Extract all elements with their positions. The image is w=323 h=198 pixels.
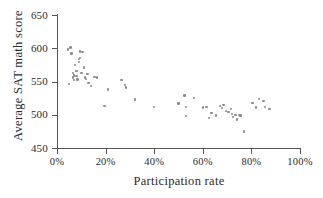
data-point [258,98,260,100]
data-point [75,70,77,72]
x-tick-label: 20% [84,156,128,167]
data-point [107,88,109,90]
data-point [205,106,207,108]
data-point [236,118,238,120]
data-point [262,100,264,102]
data-point [268,108,270,110]
data-point [103,105,105,107]
data-point [69,46,71,48]
x-tick-mark [251,149,252,154]
data-point [210,112,212,114]
x-tick-mark [300,149,301,154]
data-point [230,108,232,110]
x-tick-label: 0% [35,156,79,167]
data-point [96,76,98,78]
data-point [202,106,204,108]
data-point [87,82,89,84]
plot-area [57,15,300,148]
y-axis-title: Average SAT math score [11,6,26,146]
data-point [80,72,82,74]
data-point [222,104,224,106]
x-tick-mark [106,149,107,154]
data-point [227,111,229,113]
scatter-plot-figure: 450500550600650 0%20%40%60%80%100% Parti… [0,0,323,198]
x-tick-mark [154,149,155,154]
data-point [243,130,245,132]
data-point [185,106,187,108]
data-point [264,106,266,108]
x-tick-label: 80% [229,156,273,167]
data-point [251,102,253,104]
x-tick-mark [203,149,204,154]
data-point [76,78,78,80]
x-tick-label: 40% [132,156,176,167]
data-point [234,114,236,116]
data-point [70,52,72,54]
data-point [239,114,241,116]
x-tick-mark [57,149,58,154]
x-axis-line [57,148,301,149]
x-tick-label: 100% [278,156,322,167]
data-point [177,102,179,104]
data-point [183,94,185,96]
x-axis-title: Participation rate [57,174,301,189]
data-point [134,98,136,100]
data-point [83,66,85,68]
x-tick-label: 60% [181,156,225,167]
